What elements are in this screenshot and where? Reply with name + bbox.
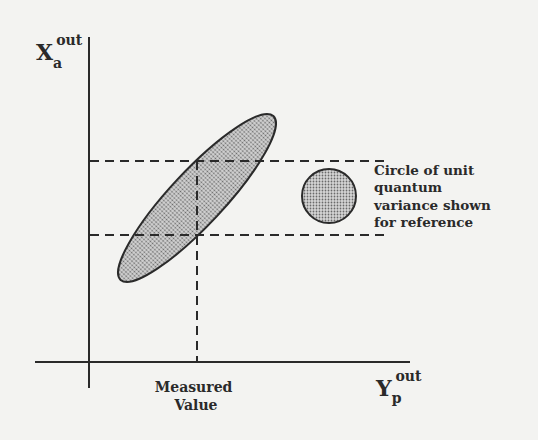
measured-value-label: Measured Value [155,379,237,413]
y-axis-label: Xaout [36,32,83,71]
x-axis-label: Ypout [375,368,422,406]
diagram-canvas: Xaout Ypout Measured Value Circle of uni… [0,0,538,440]
unit-variance-circle [302,169,356,223]
reference-note: Circle of unit quantum variance shown fo… [373,162,495,230]
